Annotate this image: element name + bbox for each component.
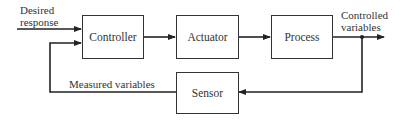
process-block: Process <box>271 15 333 59</box>
input-label-line2: response <box>20 17 59 28</box>
feedback-label: Measured variables <box>69 79 155 90</box>
output-label-line2: variables <box>341 22 388 33</box>
actuator-block: Actuator <box>176 15 239 59</box>
controller-block: Controller <box>82 15 144 59</box>
input-label-line1: Desired <box>20 5 59 16</box>
output-label-line1: Controlled <box>341 10 388 21</box>
input-label: Desired response <box>20 5 59 28</box>
output-label: Controlled variables <box>341 10 388 33</box>
sensor-block: Sensor <box>176 72 239 114</box>
